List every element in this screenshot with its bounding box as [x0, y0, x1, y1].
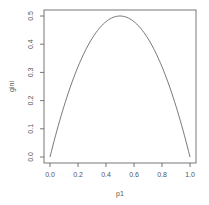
y-tick-label: 0.2 — [27, 96, 34, 106]
y-tick-label: 0.3 — [27, 67, 34, 77]
y-tick-label: 0.5 — [27, 11, 34, 21]
plot-box — [44, 10, 196, 163]
y-tick-label: 0.0 — [27, 152, 34, 162]
x-tick-label: 0.4 — [101, 171, 111, 178]
gini-curve — [50, 16, 190, 157]
y-axis-label: gini — [8, 81, 16, 92]
x-tick-label: 1.0 — [185, 171, 195, 178]
y-tick-label: 0.1 — [27, 124, 34, 134]
x-axis-label: p1 — [116, 190, 124, 198]
x-tick-label: 0.0 — [45, 171, 55, 178]
y-axis: 0.00.10.20.30.40.5 — [27, 11, 44, 162]
y-tick-label: 0.4 — [27, 39, 34, 49]
x-axis: 0.00.20.40.60.81.0 — [45, 163, 195, 178]
x-tick-label: 0.6 — [129, 171, 139, 178]
gini-chart: 0.00.20.40.60.81.0 0.00.10.20.30.40.5 p1… — [0, 0, 209, 205]
x-tick-label: 0.8 — [157, 171, 167, 178]
x-tick-label: 0.2 — [73, 171, 83, 178]
